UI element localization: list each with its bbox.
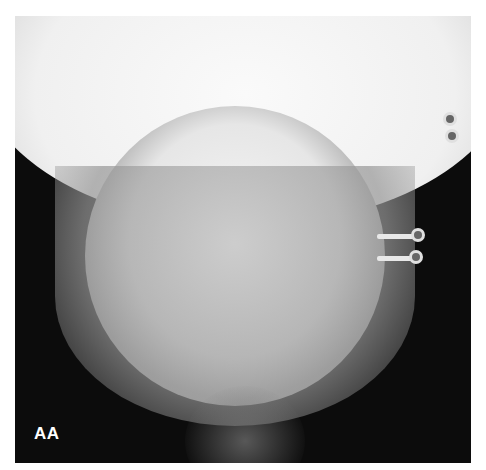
image-label: AA [34,424,60,444]
screw-upper-2 [445,129,459,143]
screw-upper-1 [443,112,457,126]
screw-plate-1 [411,228,425,242]
xray-image [15,16,471,463]
screw-plate-2 [409,250,423,264]
